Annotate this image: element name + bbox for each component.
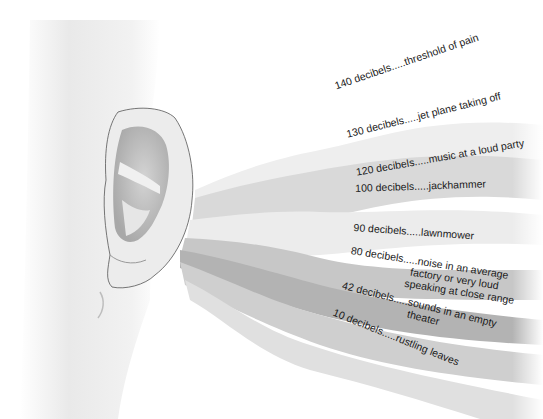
level-desc: jackhammer (429, 177, 487, 191)
level-db: 100 decibels (355, 180, 414, 194)
separator: ..... (406, 225, 421, 238)
ear-sound-illustration (0, 0, 543, 419)
separator: ..... (414, 179, 429, 192)
